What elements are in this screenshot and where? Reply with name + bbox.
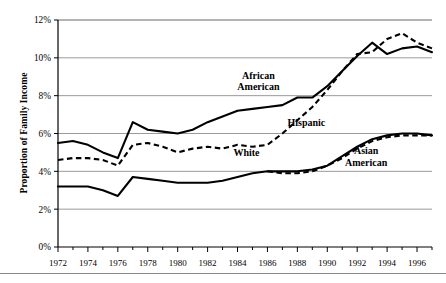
footer-divider [0, 273, 446, 274]
x-tick-label: 1986 [258, 258, 277, 268]
x-tick-label: 1976 [109, 258, 128, 268]
x-tick-label: 1994 [378, 258, 397, 268]
y-tick-label: 6% [39, 129, 52, 139]
line-chart-svg: 0%2%4%6%8%10%12% 19721974197619781980198… [0, 0, 446, 283]
x-tick-label: 1990 [318, 258, 337, 268]
series-annotation-label: Hispanic [287, 117, 325, 128]
x-axis-ticks-group: 1972197419761978198019821984198619881990… [49, 247, 432, 268]
x-tick-label: 1978 [139, 258, 158, 268]
y-axis-ticks-group: 0%2%4%6%8%10%12% [34, 15, 58, 252]
y-tick-label: 0% [39, 242, 52, 252]
x-tick-label: 1982 [199, 258, 217, 268]
series-line-african-american [58, 43, 432, 158]
y-tick-label: 4% [39, 167, 52, 177]
x-tick-label: 1984 [229, 258, 248, 268]
y-tick-label: 10% [34, 53, 51, 63]
chart-figure: Proportion of Family Income 0%2%4%6%8%10… [0, 0, 446, 283]
x-tick-label: 1996 [408, 258, 427, 268]
series-annotation-label: AsianAmerican [345, 145, 388, 168]
series-annotation-label: White [233, 147, 260, 158]
x-tick-label: 1980 [169, 258, 188, 268]
series-annotation-label: AfricanAmerican [237, 70, 280, 93]
x-tick-label: 1992 [348, 258, 366, 268]
series-annotations-group: AfricanAmericanHispanicWhiteAsianAmerica… [233, 70, 387, 168]
x-tick-label: 1972 [49, 258, 67, 268]
y-tick-label: 2% [39, 205, 52, 215]
y-tick-label: 12% [34, 15, 51, 25]
x-tick-label: 1988 [288, 258, 307, 268]
x-tick-label: 1974 [79, 258, 98, 268]
y-tick-label: 8% [39, 91, 52, 101]
